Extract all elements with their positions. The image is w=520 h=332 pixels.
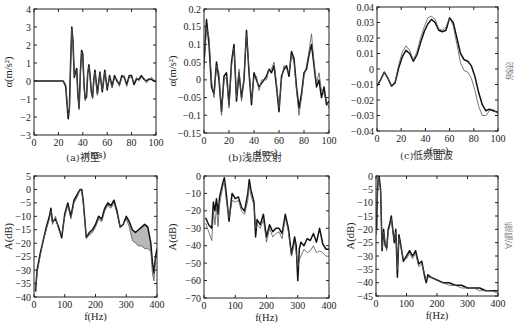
y-tick-label: −0.03 (351, 110, 374, 121)
y-tick-label: 1 (26, 58, 31, 69)
y-axis-label: α(m/s²) (167, 55, 179, 86)
side-label-amplitude: 振幅/A (502, 222, 515, 249)
x-tick-label: 80 (299, 135, 309, 146)
x-tick-label: 100 (322, 135, 337, 146)
x-axis-label: f(Hz) (255, 312, 278, 324)
chart-c-freq: 0100200300400−45−40−35−30−25−20−15−10−50… (345, 171, 506, 323)
x-tick-label: 100 (149, 137, 164, 148)
y-axis-label: A(dB) (3, 223, 15, 250)
x-tick-label: 300 (460, 298, 475, 309)
x-tick-label: 80 (127, 137, 137, 148)
series-line-thick (206, 178, 329, 281)
y-tick-label: 0 (26, 76, 31, 87)
y-tick-label: −30 (185, 223, 201, 234)
y-tick-label: 0 (26, 184, 31, 195)
y-tick-label: 0.1 (189, 39, 202, 50)
y-tick-label: −3 (20, 130, 31, 141)
y-tick-label: 0 (196, 74, 201, 85)
x-tick-label: 60 (274, 135, 284, 146)
side-label-waveform: 波形 (502, 62, 515, 80)
chart-b-time: 020406080100−0.15−0.1−0.0500.050.10.150.… (167, 4, 337, 160)
y-tick-label: −30 (15, 265, 31, 276)
y-tick-label: −25 (15, 251, 31, 262)
x-tick-label: 400 (150, 299, 165, 310)
figure-canvas: 020406080100−3−2−101234t(ms)α(m/s²)02040… (0, 0, 520, 332)
y-axis-label: A(dB) (167, 223, 179, 250)
y-tick-label: −10 (357, 197, 373, 208)
x-tick-label: 80 (469, 133, 479, 144)
series-line-thick (377, 18, 498, 113)
x-tick-label: 60 (102, 137, 112, 148)
y-tick-label: −35 (15, 278, 31, 289)
series-line-thin (206, 181, 329, 266)
caption-c: (c)低频面波 (400, 147, 453, 162)
y-tick-label: −20 (357, 224, 373, 235)
y-tick-label: 0 (369, 64, 374, 75)
y-tick-label: −5 (362, 184, 373, 195)
y-tick-label: 0.15 (184, 21, 202, 32)
x-tick-label: 100 (491, 133, 506, 144)
x-tick-label: 300 (119, 299, 134, 310)
y-tick-label: −5 (20, 197, 31, 208)
x-tick-label: 0 (374, 298, 379, 309)
shaded-difference-area (36, 189, 158, 291)
y-tick-label: 5 (26, 171, 31, 182)
plot-frame (204, 9, 329, 133)
caption-a: (a)初至 (66, 149, 100, 164)
y-axis-label: α(m/s²) (3, 56, 15, 87)
x-tick-label: 0 (202, 300, 207, 311)
x-tick-label: 60 (445, 133, 455, 144)
y-tick-label: 2 (26, 40, 31, 51)
y-tick-label: 0.2 (189, 4, 202, 15)
x-tick-label: 0 (32, 137, 37, 148)
y-tick-label: −1 (20, 94, 31, 105)
y-tick-label: −10 (15, 211, 31, 222)
y-tick-label: −40 (15, 292, 31, 303)
chart-a-time: 020406080100−3−2−101234t(ms)α(m/s²) (3, 4, 164, 162)
x-tick-label: 0 (202, 135, 207, 146)
y-tick-label: −0.04 (351, 126, 374, 137)
y-tick-label: 0.03 (357, 17, 375, 28)
y-axis-label: A(dB) (345, 222, 357, 249)
x-tick-label: 300 (290, 300, 305, 311)
x-tick-label: 40 (78, 137, 88, 148)
y-tick-label: −45 (357, 291, 373, 302)
y-tick-label: 0.02 (357, 33, 375, 44)
y-tick-label: −35 (357, 264, 373, 275)
x-axis-label: f(Hz) (84, 311, 107, 323)
y-tick-label: 0 (196, 171, 201, 182)
y-tick-label: 0.05 (184, 57, 202, 68)
y-tick-label: −15 (15, 224, 31, 235)
caption-b: (b)浅层反射 (228, 149, 282, 164)
series-line-thick (377, 176, 498, 291)
y-tick-label: −0.1 (183, 110, 201, 121)
y-tick-label: −15 (357, 211, 373, 222)
x-tick-label: 100 (57, 299, 72, 310)
chart-b-freq: 0100200300400−70−60−50−40−30−20−100f(Hz)… (167, 171, 337, 325)
x-tick-label: 200 (259, 300, 274, 311)
y-tick-label: 0.04 (357, 2, 375, 13)
y-tick-label: 0 (368, 171, 373, 182)
y-tick-label: −10 (185, 188, 201, 199)
x-tick-label: 20 (53, 137, 63, 148)
y-tick-label: 4 (26, 4, 31, 15)
x-tick-label: 400 (491, 298, 506, 309)
x-tick-label: 200 (88, 299, 103, 310)
y-tick-label: −0.05 (178, 92, 201, 103)
y-tick-label: −20 (185, 205, 201, 216)
x-tick-label: 40 (249, 135, 259, 146)
y-tick-label: −0.15 (178, 128, 201, 139)
y-tick-label: −0.02 (351, 95, 374, 106)
y-tick-label: 3 (26, 22, 31, 33)
y-tick-label: −0.01 (351, 79, 374, 90)
x-tick-label: 40 (420, 133, 430, 144)
y-tick-label: −70 (185, 293, 201, 304)
x-tick-label: 20 (396, 133, 406, 144)
y-tick-label: −30 (357, 251, 373, 262)
chart-a-freq: 0100200300400−40−35−30−25−20−15−10−505f(… (3, 171, 165, 324)
y-tick-label: 0.01 (357, 48, 375, 59)
y-tick-label: −60 (185, 275, 201, 286)
x-tick-label: 200 (430, 298, 445, 309)
x-tick-label: 100 (399, 298, 414, 309)
y-tick-label: −40 (185, 240, 201, 251)
